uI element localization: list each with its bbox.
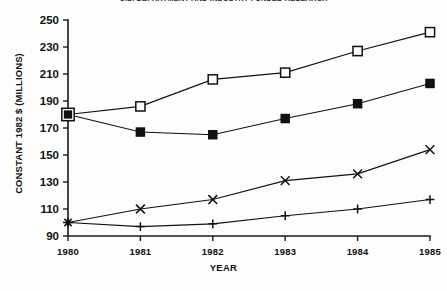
chart-figure: U.S. DEPARTMENT AND INDUSTRY FUNDED RESE…: [0, 0, 447, 291]
x-tick-label: 1985: [419, 246, 441, 257]
marker-plus: [281, 211, 290, 220]
series-line-filled-square: [68, 83, 430, 134]
series-line-cross: [68, 150, 430, 223]
series-line-plus: [68, 200, 430, 227]
y-tick-label: 170: [40, 122, 59, 134]
y-tick-label: 150: [40, 149, 59, 161]
plot-area: 25023021019017015013011090 1980198119821…: [0, 0, 447, 291]
marker-asterisk: [63, 218, 73, 228]
series-line-open-square: [68, 32, 430, 114]
marker-filled-square: [426, 79, 434, 87]
marker-open-square: [425, 28, 434, 37]
marker-plus: [353, 205, 362, 214]
y-tick-label: 110: [40, 203, 59, 215]
marker-open-square: [136, 102, 145, 111]
marker-plus: [208, 219, 217, 228]
marker-filled-square: [136, 128, 144, 136]
y-tick-label: 210: [40, 68, 59, 80]
marker-filled-square: [209, 131, 217, 139]
marker-open-square: [281, 68, 290, 77]
x-axis-tick-labels: 198019811982198319841985: [57, 246, 441, 257]
x-tick-label: 1983: [274, 246, 296, 257]
marker-filled-square: [354, 100, 362, 108]
marker-cross: [426, 145, 435, 154]
x-tick-label: 1981: [129, 246, 151, 257]
x-tick-label: 1982: [202, 246, 224, 257]
marker-open-square: [353, 46, 362, 55]
x-tick-label: 1984: [347, 246, 369, 257]
marker-plus: [136, 222, 145, 231]
data-series-group: [62, 28, 435, 231]
y-tick-label: 130: [40, 176, 59, 188]
y-tick-label: 90: [46, 230, 59, 242]
x-tick-label: 1980: [57, 246, 79, 257]
marker-plus: [426, 195, 435, 204]
y-tick-label: 230: [40, 41, 59, 53]
y-tick-label: 190: [40, 95, 59, 107]
marker-nested-square: [62, 108, 74, 120]
marker-filled-square: [281, 115, 289, 123]
y-tick-label: 250: [40, 14, 59, 26]
y-axis-tick-labels: 25023021019017015013011090: [40, 14, 59, 242]
marker-open-square: [208, 75, 217, 84]
